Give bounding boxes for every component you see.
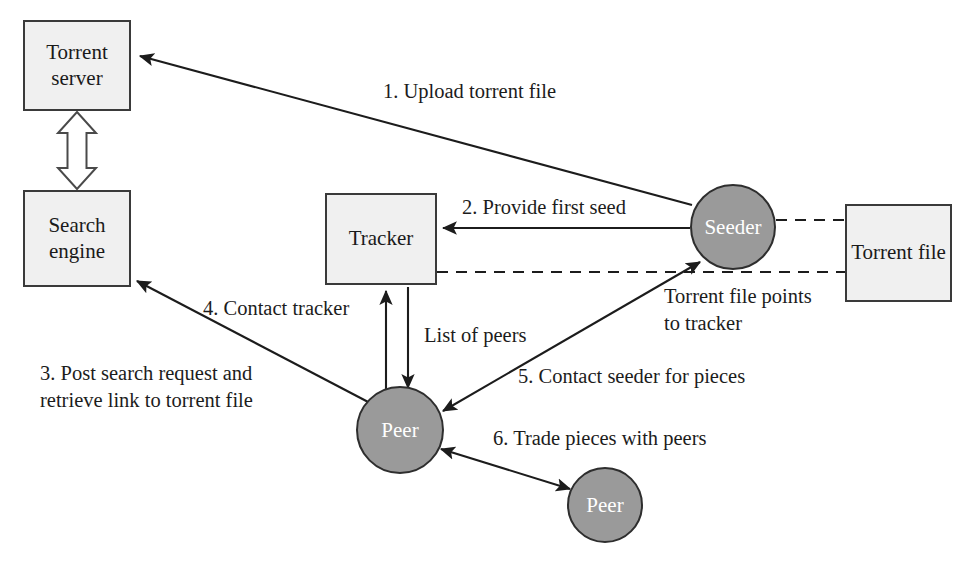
node-torrent-file[interactable]: Torrent file	[845, 204, 952, 302]
edge-label-torrent-file-points-to-tracker: Torrent file points to tracker	[664, 283, 812, 336]
connection-peer-to-peer	[441, 449, 570, 489]
node-seeder-label: Seeder	[704, 215, 761, 240]
node-peer-main[interactable]: Peer	[356, 386, 444, 474]
node-torrent-server-label: Torrent server	[25, 40, 129, 91]
edge-label-step-1: 1. Upload torrent file	[383, 78, 556, 105]
node-peer-second-label: Peer	[586, 493, 623, 518]
node-peer-main-label: Peer	[381, 418, 418, 443]
node-torrent-server[interactable]: Torrent server	[23, 20, 131, 111]
node-tracker[interactable]: Tracker	[325, 193, 437, 285]
node-tracker-label: Tracker	[349, 226, 414, 252]
connection-server-engine-block-arrow	[58, 112, 96, 189]
edge-label-step-2: 2. Provide first seed	[462, 194, 626, 221]
node-torrent-file-label: Torrent file	[851, 240, 946, 266]
edge-label-list-of-peers: List of peers	[424, 322, 526, 349]
node-peer-second[interactable]: Peer	[567, 467, 643, 543]
edge-label-step-4: 4. Contact tracker	[203, 295, 349, 322]
edge-label-step-3: 3. Post search request and retrieve link…	[40, 360, 253, 413]
node-search-engine[interactable]: Search engine	[23, 190, 131, 287]
node-search-engine-label: Search engine	[25, 213, 129, 264]
edge-label-step-6: 6. Trade pieces with peers	[493, 425, 707, 452]
bittorrent-flow-diagram: Torrent server Search engine Tracker Tor…	[0, 0, 970, 575]
node-seeder[interactable]: Seeder	[690, 184, 776, 270]
edge-label-step-5: 5. Contact seeder for pieces	[518, 363, 745, 390]
